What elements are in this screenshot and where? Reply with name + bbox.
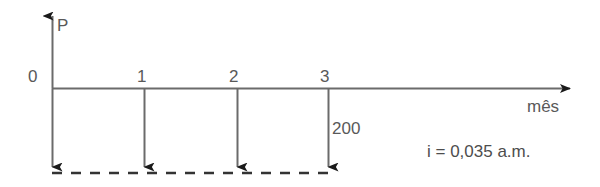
tick-label-2: 2 bbox=[229, 68, 238, 85]
cash-flow-diagram: P 0 1 2 3 mês 200 i = 0,035 a.m. bbox=[0, 0, 600, 187]
present-value-axis-label: P bbox=[57, 17, 68, 34]
interest-rate-label: i = 0,035 a.m. bbox=[427, 143, 530, 160]
tick-label-3: 3 bbox=[320, 68, 329, 85]
time-axis-label: mês bbox=[527, 98, 559, 115]
tick-label-0: 0 bbox=[28, 68, 37, 85]
tick-label-1: 1 bbox=[137, 68, 146, 85]
payment-value-label: 200 bbox=[332, 120, 360, 137]
